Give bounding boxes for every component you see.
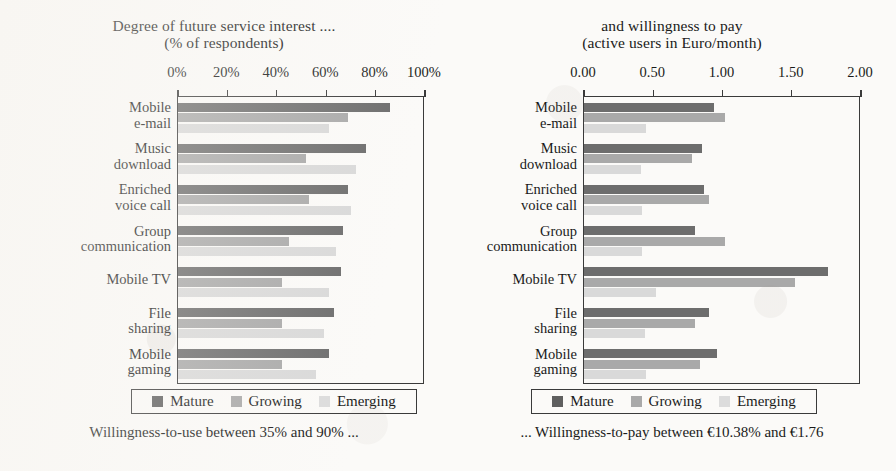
x-tick-label: 0.50	[640, 64, 665, 81]
bar-mature	[178, 349, 329, 358]
x-axis-tick	[722, 90, 723, 97]
bar-growing	[584, 237, 725, 246]
bar-mature	[178, 144, 366, 153]
legend-label-emerging: Emerging	[337, 393, 396, 410]
legend-item-mature: Mature	[552, 393, 613, 410]
bar-growing	[584, 154, 692, 163]
legend-label-mature: Mature	[570, 393, 613, 410]
category-label: Mobile gaming	[0, 347, 171, 378]
bar-emerging	[584, 206, 642, 215]
category-label: Mobile TV	[0, 272, 171, 288]
bar-mature	[178, 267, 341, 276]
legend-label-growing: Growing	[249, 393, 302, 410]
bar-emerging	[178, 370, 316, 379]
bar-growing	[178, 237, 289, 246]
x-tick-label: 60%	[312, 64, 339, 81]
bar-growing	[584, 360, 700, 369]
bar-growing	[178, 113, 348, 122]
bar-emerging	[584, 124, 646, 133]
left-caption: Willingness-to-use between 35% and 90% .…	[0, 424, 448, 441]
category-label: File sharing	[448, 306, 577, 337]
x-tick-label: 1.00	[709, 64, 734, 81]
bar-emerging	[584, 165, 641, 174]
legend-item-emerging: Emerging	[319, 393, 396, 410]
right-caption: ... Willingness-to-pay between €10.38% a…	[448, 424, 896, 441]
x-axis-tick	[326, 90, 327, 97]
category-label: File sharing	[0, 306, 171, 337]
bar-mature	[584, 144, 702, 153]
legend-label-emerging: Emerging	[737, 393, 796, 410]
category-label: Mobile e-mail	[448, 100, 577, 131]
bar-emerging	[178, 165, 356, 174]
bar-growing	[584, 278, 795, 287]
legend-item-emerging: Emerging	[719, 393, 796, 410]
left-x-axis-labels: 0%20%40%60%80%100%	[0, 64, 448, 82]
legend-swatch-growing	[631, 396, 642, 407]
category-label: Group communication	[448, 224, 577, 255]
x-axis-tick	[424, 90, 425, 97]
category-label: Mobile gaming	[448, 347, 577, 378]
bar-mature	[178, 226, 343, 235]
category-label: Music download	[448, 141, 577, 172]
x-axis-tick	[583, 90, 584, 97]
legend-item-mature: Mature	[152, 393, 213, 410]
bar-emerging	[178, 124, 329, 133]
left-title-line1: Degree of future service interest ....	[113, 17, 336, 34]
bar-emerging	[178, 329, 324, 338]
x-tick-label: 100%	[407, 64, 441, 81]
bar-growing	[178, 319, 282, 328]
legend-swatch-emerging	[319, 396, 330, 407]
bar-emerging	[584, 288, 656, 297]
bar-growing	[178, 360, 282, 369]
bar-growing	[584, 319, 695, 328]
bar-emerging	[584, 247, 642, 256]
panel-left: Degree of future service interest .... (…	[0, 0, 448, 471]
bar-mature	[584, 226, 695, 235]
x-tick-label: 0%	[167, 64, 186, 81]
category-label: Group communication	[0, 224, 171, 255]
category-label: Mobile e-mail	[0, 100, 171, 131]
right-x-axis-labels: 0.000.501.001.502.00	[448, 64, 896, 82]
bar-growing	[584, 195, 709, 204]
x-tick-label: 40%	[263, 64, 290, 81]
left-chart-title: Degree of future service interest .... (…	[0, 18, 448, 51]
bar-growing	[178, 195, 309, 204]
legend-label-growing: Growing	[649, 393, 702, 410]
x-axis-tick	[177, 90, 178, 97]
bar-growing	[178, 154, 306, 163]
bar-mature	[178, 308, 334, 317]
category-label: Enriched voice call	[0, 182, 171, 213]
category-label: Enriched voice call	[448, 182, 577, 213]
bar-mature	[584, 103, 714, 112]
bar-mature	[584, 349, 717, 358]
x-tick-label: 20%	[213, 64, 240, 81]
legend-swatch-mature	[152, 396, 163, 407]
x-axis-tick	[653, 90, 654, 97]
x-axis-tick	[791, 90, 792, 97]
right-chart-title: and willingness to pay (active users in …	[448, 18, 896, 51]
x-tick-label: 80%	[361, 64, 388, 81]
bar-emerging	[584, 329, 645, 338]
bar-mature	[584, 267, 828, 276]
right-plot-area	[583, 96, 860, 384]
legend-item-growing: Growing	[631, 393, 702, 410]
x-tick-label: 2.00	[847, 64, 872, 81]
x-tick-label: 1.50	[778, 64, 803, 81]
bar-growing	[584, 113, 725, 122]
x-axis-tick	[227, 90, 228, 97]
legend-item-growing: Growing	[231, 393, 302, 410]
left-plot-area	[177, 96, 424, 384]
x-tick-label: 0.00	[570, 64, 595, 81]
bar-emerging	[584, 370, 646, 379]
panel-right: and willingness to pay (active users in …	[448, 0, 896, 471]
right-legend: Mature Growing Emerging	[531, 389, 817, 414]
bar-mature	[584, 185, 704, 194]
right-title-line2: (active users in Euro/month)	[448, 35, 896, 52]
category-label: Mobile TV	[448, 272, 577, 288]
bar-emerging	[178, 206, 351, 215]
legend-swatch-emerging	[719, 396, 730, 407]
x-axis-tick	[375, 90, 376, 97]
legend-swatch-growing	[231, 396, 242, 407]
x-axis-tick	[860, 90, 861, 97]
left-title-line2: (% of respondents)	[0, 35, 448, 52]
